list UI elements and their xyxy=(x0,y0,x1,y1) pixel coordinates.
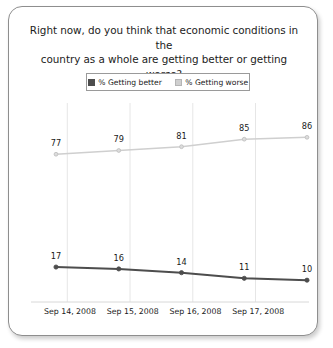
data-point[interactable] xyxy=(242,276,246,280)
data-point[interactable] xyxy=(54,265,58,269)
chart-legend: % Getting better % Getting worse xyxy=(86,73,250,91)
chart-x-axis-labels: Sep 14, 2008Sep 15, 2008Sep 16, 2008Sep … xyxy=(9,307,318,325)
data-point[interactable] xyxy=(305,135,309,139)
data-label: 16 xyxy=(114,253,124,263)
data-label: 14 xyxy=(176,257,186,267)
data-point[interactable] xyxy=(117,267,121,271)
chart-plot-area: 77798185861716141110 xyxy=(9,103,318,303)
legend-label-getting-better: % Getting better xyxy=(98,78,162,87)
x-axis-label: Sep 14, 2008 xyxy=(44,307,96,316)
data-label: 85 xyxy=(239,123,249,133)
x-axis-label: Sep 15, 2008 xyxy=(107,307,159,316)
data-point[interactable] xyxy=(117,149,121,153)
data-point[interactable] xyxy=(179,271,183,275)
data-label: 10 xyxy=(302,264,312,274)
chart-card: Right now, do you think that economic co… xyxy=(8,6,318,336)
x-axis-label: Sep 16, 2008 xyxy=(170,307,222,316)
data-point[interactable] xyxy=(305,278,309,282)
chart-svg xyxy=(9,103,318,307)
data-point[interactable] xyxy=(242,137,246,141)
legend-item-getting-better[interactable]: % Getting better xyxy=(88,78,162,87)
legend-label-getting-worse: % Getting worse xyxy=(185,78,248,87)
data-point[interactable] xyxy=(54,152,58,156)
data-point[interactable] xyxy=(180,145,184,149)
data-label: 77 xyxy=(51,138,61,148)
data-label: 86 xyxy=(302,121,312,131)
legend-swatch-getting-better xyxy=(88,79,95,86)
legend-swatch-getting-worse xyxy=(175,79,182,86)
legend-item-getting-worse[interactable]: % Getting worse xyxy=(175,78,248,87)
data-label: 11 xyxy=(239,262,249,272)
data-label: 79 xyxy=(114,134,124,144)
data-label: 81 xyxy=(176,131,186,141)
chart-title-line-1: Right now, do you think that economic co… xyxy=(30,24,298,51)
data-label: 17 xyxy=(51,251,61,261)
x-axis-label: Sep 17, 2008 xyxy=(232,307,284,316)
